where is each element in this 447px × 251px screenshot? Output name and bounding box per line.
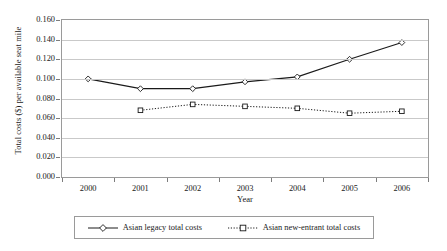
data-point-marker: [138, 86, 144, 92]
x-axis-tick-mark: [323, 178, 324, 182]
gridline: [62, 79, 428, 80]
x-axis-tick-mark: [167, 178, 168, 182]
x-axis-tick-mark: [271, 178, 272, 182]
gridline: [62, 138, 428, 139]
x-axis-title: Year: [61, 194, 429, 204]
data-point-marker: [138, 108, 143, 113]
x-axis-tick-label: 2002: [170, 184, 216, 193]
y-axis-tick-mark: [56, 20, 60, 21]
legend-label-asian-new-entrant: Asian new-entrant total costs: [263, 223, 360, 232]
y-axis-tick-label: 0.060: [3, 113, 55, 122]
y-axis-tick-mark: [56, 99, 60, 100]
x-axis-tick-mark: [428, 178, 429, 182]
data-point-marker: [190, 102, 195, 107]
legend-label-asian-legacy: Asian legacy total costs: [123, 223, 202, 232]
y-axis-tick-mark: [56, 177, 60, 178]
y-axis-tick-mark: [56, 138, 60, 139]
legend-item-asian-new-entrant[interactable]: Asian new-entrant total costs: [228, 223, 360, 233]
data-point-marker: [190, 86, 196, 92]
y-axis-tick-mark: [56, 59, 60, 60]
legend-solid-diamond-icon: [88, 223, 118, 233]
x-axis-tick-label: 2004: [274, 184, 320, 193]
y-axis-tick-label: 0.100: [3, 74, 55, 83]
legend-dotted-square-icon: [228, 223, 258, 233]
y-axis-tick-group: 0.0000.0200.0400.0600.0800.1000.1200.140…: [0, 19, 55, 178]
x-axis-tick-mark: [114, 178, 115, 182]
y-axis-tick-label: 0.120: [3, 54, 55, 63]
y-axis-tick-mark: [56, 157, 60, 158]
x-axis-tick-mark: [219, 178, 220, 182]
y-axis-tick-label: 0.020: [3, 152, 55, 161]
x-axis-tick-label: 2006: [379, 184, 425, 193]
gridline: [62, 59, 428, 60]
gridline: [62, 99, 428, 100]
x-axis-tick-label: 2005: [327, 184, 373, 193]
y-axis-tick-mark: [56, 79, 60, 80]
y-axis-tick-mark: [56, 40, 60, 41]
gridline: [62, 157, 428, 158]
gridline: [62, 40, 428, 41]
data-point-marker: [347, 111, 352, 116]
plot-area: [61, 19, 429, 178]
x-axis-tick-mark: [376, 178, 377, 182]
gridline: [62, 118, 428, 119]
legend-item-asian-legacy[interactable]: Asian legacy total costs: [88, 223, 202, 233]
x-axis-tick-label: 2001: [117, 184, 163, 193]
y-axis-tick-label: 0.140: [3, 35, 55, 44]
x-axis-tick-label: 2003: [222, 184, 268, 193]
series-2: [138, 102, 404, 115]
x-axis-tick-mark: [62, 178, 63, 182]
data-point-marker: [243, 104, 248, 109]
data-point-marker: [400, 109, 405, 114]
y-axis-tick-label: 0.000: [3, 172, 55, 181]
data-point-marker: [295, 106, 300, 111]
series-line: [140, 104, 401, 113]
series-1: [85, 40, 405, 92]
y-axis-tick-label: 0.160: [3, 15, 55, 24]
chart-figure: Total costs ($) per available seat mile …: [0, 0, 447, 251]
x-axis-tick-label: 2000: [65, 184, 111, 193]
y-axis-tick-label: 0.080: [3, 94, 55, 103]
chart-legend: Asian legacy total costs Asian new-entra…: [74, 216, 374, 239]
y-axis-tick-label: 0.040: [3, 133, 55, 142]
y-axis-tick-mark: [56, 118, 60, 119]
